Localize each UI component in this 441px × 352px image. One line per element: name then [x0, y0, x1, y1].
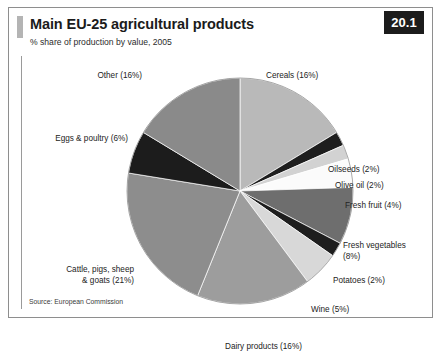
pie-label-eggs-poultry: Eggs & poultry (6%)	[14, 133, 128, 144]
pie-label-dairy-products: Dairy products (16%)	[225, 341, 302, 352]
pie-label-fresh-vegetables: Fresh vegetables (8%)	[343, 240, 406, 262]
page-title: Main EU-25 agricultural products	[30, 16, 254, 32]
pie-label-fresh-vegetables-line1: Fresh vegetables	[343, 240, 406, 251]
pie-label-wine: Wine (5%)	[311, 304, 349, 315]
pie-label-cereals: Cereals (16%)	[266, 70, 318, 81]
pie-label-cattle-pigs-sheep-goats: Cattle, pigs, sheep & goats (21%)	[16, 264, 134, 286]
pie-label-cattle-line1: Cattle, pigs, sheep	[16, 264, 134, 275]
pie-label-potatoes: Potatoes (2%)	[333, 275, 385, 286]
pie-slices-group	[127, 78, 353, 304]
pie-label-other-text: Other (16%)	[97, 71, 142, 80]
pie-label-dairy-products-text: Dairy products (16%)	[225, 342, 302, 351]
pie-label-fresh-fruit-text: Fresh fruit (4%)	[345, 201, 401, 210]
pie-label-olive-oil-text: Olive oil (2%)	[335, 181, 384, 190]
plot-frame: Other (16%) Cereals (16%) Oilseeds (2%) …	[21, 56, 421, 309]
pie-label-fresh-vegetables-line2: (8%)	[343, 251, 406, 262]
pie-label-oilseeds: Oilseeds (2%)	[328, 164, 379, 175]
title-accent-bar	[17, 16, 23, 38]
pie-label-fresh-fruit: Fresh fruit (4%)	[345, 200, 401, 211]
pie-label-cereals-text: Cereals (16%)	[266, 71, 318, 80]
figure-subtitle: % share of production by value, 2005	[30, 37, 172, 47]
pie-label-eggs-poultry-text: Eggs & poultry (6%)	[55, 134, 128, 143]
figure-header: Main EU-25 agricultural products % share…	[9, 8, 432, 56]
pie-label-oilseeds-text: Oilseeds (2%)	[328, 165, 379, 174]
figure-number-badge: 20.1	[384, 11, 424, 34]
figure-container: Main EU-25 agricultural products % share…	[8, 7, 433, 318]
pie-label-olive-oil: Olive oil (2%)	[335, 180, 384, 191]
pie-label-cattle-line2: & goats (21%)	[16, 275, 134, 286]
pie-label-potatoes-text: Potatoes (2%)	[333, 276, 385, 285]
source-note: Source: European Commission	[29, 298, 123, 305]
pie-chart: Other (16%) Cereals (16%) Oilseeds (2%) …	[22, 56, 421, 309]
pie-label-wine-text: Wine (5%)	[311, 305, 349, 314]
pie-label-other: Other (16%)	[18, 70, 142, 81]
